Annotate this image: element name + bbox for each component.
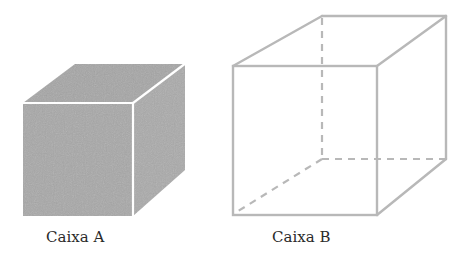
box-a-solid-cube <box>23 64 185 216</box>
box-b-front-face <box>233 66 377 215</box>
figure-canvas <box>0 0 474 256</box>
box-a-label: Caixa A <box>46 228 104 246</box>
box-b-label: Caixa B <box>272 228 330 246</box>
box-b-bottom-right-edge <box>377 159 446 215</box>
box-b-top-right-edge <box>377 16 446 66</box>
box-b-wireframe-cube <box>233 16 446 215</box>
box-a-front-face <box>23 103 133 216</box>
box-b-hidden-bottom-left-edge <box>235 159 322 213</box>
box-b-top-left-edge <box>233 16 322 66</box>
